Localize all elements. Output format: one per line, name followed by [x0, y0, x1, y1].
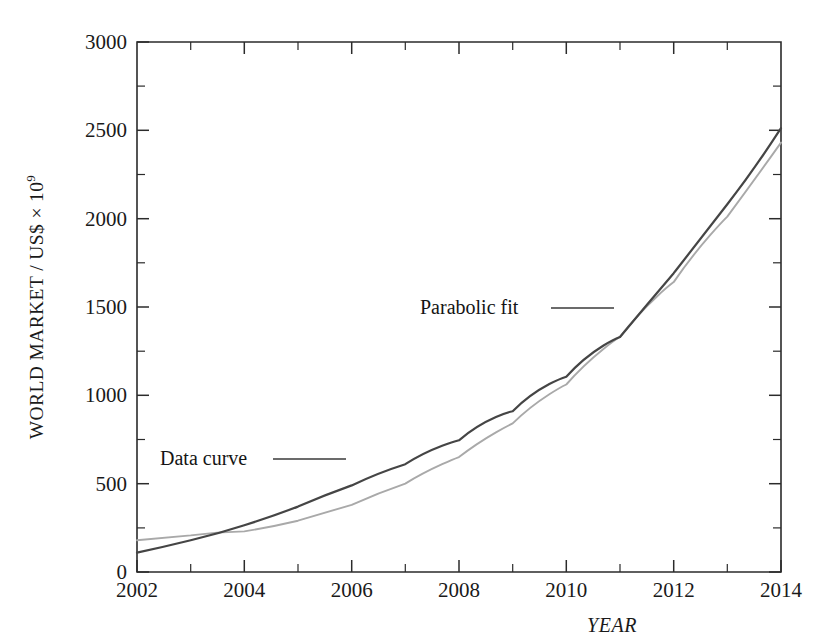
- x-tick-label-2012: 2012: [653, 578, 695, 602]
- line-chart: 0 500 1000 1500 2000 2500 3000: [0, 0, 840, 641]
- data-curve-annotation-label: Data curve: [160, 447, 247, 469]
- x-tick-label-2008: 2008: [438, 578, 480, 602]
- y-axis-title-text: WORLD MARKET / US$ × 10: [26, 182, 47, 440]
- x-tick-label-2002: 2002: [116, 578, 158, 602]
- parabolic-fit-annotation-label: Parabolic fit: [420, 296, 519, 318]
- y-tick-label-3000: 3000: [85, 30, 127, 54]
- y-tick-label-2500: 2500: [85, 118, 127, 142]
- x-axis-tick-labels: 2002 2004 2006 2008 2010 2012 2014: [116, 578, 803, 602]
- x-tick-label-2006: 2006: [331, 578, 373, 602]
- y-tick-label-1500: 1500: [85, 295, 127, 319]
- data-curve-annotation: Data curve: [160, 447, 346, 469]
- x-axis-title: YEAR: [587, 614, 637, 636]
- svg-text:WORLD MARKET / US$ × 109: WORLD MARKET / US$ × 109: [23, 175, 47, 440]
- y-tick-label-500: 500: [96, 472, 128, 496]
- y-tick-label-2000: 2000: [85, 207, 127, 231]
- y-axis-title: WORLD MARKET / US$ × 109: [23, 175, 47, 440]
- series-parabolic-fit: [137, 143, 781, 541]
- y-axis-title-exponent: 9: [23, 175, 38, 182]
- chart-figure: 0 500 1000 1500 2000 2500 3000: [0, 0, 840, 641]
- x-tick-label-2014: 2014: [760, 578, 803, 602]
- x-tick-label-2004: 2004: [223, 578, 266, 602]
- y-tick-label-1000: 1000: [85, 383, 127, 407]
- parabolic-fit-annotation: Parabolic fit: [420, 296, 614, 318]
- y-axis-tick-labels: 0 500 1000 1500 2000 2500 3000: [85, 30, 127, 584]
- x-tick-label-2010: 2010: [545, 578, 587, 602]
- series-data-curve: [137, 128, 781, 552]
